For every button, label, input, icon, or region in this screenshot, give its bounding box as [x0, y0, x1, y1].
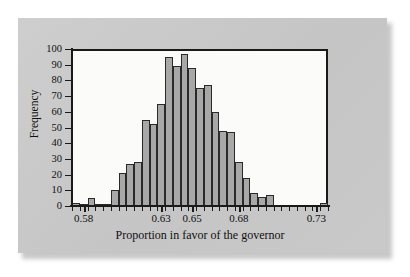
x-axis-tick: [258, 206, 259, 211]
histogram-bar: [173, 66, 181, 206]
y-axis-tick: [65, 80, 72, 81]
histogram-bar: [243, 178, 251, 206]
histogram-bar: [142, 120, 150, 206]
histogram-bar: [157, 104, 165, 206]
x-axis-tick: [126, 206, 127, 211]
histogram-bar: [111, 190, 119, 206]
x-axis-tick: [297, 206, 298, 211]
histogram-bar: [165, 57, 173, 206]
y-axis-tick: [65, 65, 72, 66]
y-axis-tick-label: 10: [32, 185, 62, 196]
x-axis-tick: [142, 206, 143, 211]
histogram-bar: [181, 54, 189, 206]
x-axis-tick: [72, 206, 73, 211]
y-axis-tick: [65, 206, 72, 207]
x-axis-line: [70, 205, 330, 207]
x-axis-tick: [243, 206, 244, 211]
x-axis-tick: [80, 206, 81, 211]
x-axis-tick: [305, 206, 306, 211]
y-axis-tick: [65, 159, 72, 160]
x-axis-tick: [95, 206, 96, 211]
x-axis-tick: [111, 206, 112, 211]
histogram-bar: [126, 164, 134, 206]
y-axis-tick-label: 30: [32, 154, 62, 165]
x-axis-tick-label: 0.68: [229, 212, 248, 224]
y-axis-title: Frequency: [28, 74, 40, 154]
x-axis-tick: [173, 206, 174, 211]
y-axis-tick-label: 100: [32, 44, 62, 55]
x-axis-tick: [235, 206, 236, 211]
x-axis-tick: [103, 206, 104, 211]
y-axis-tick: [65, 143, 72, 144]
x-axis-tick: [181, 206, 182, 211]
histogram-bar: [227, 132, 235, 206]
x-axis-tick: [328, 206, 329, 211]
x-axis-tick: [274, 206, 275, 211]
histogram-bar: [150, 124, 158, 206]
figure-root: 0102030405060708090100 0.580.630.650.680…: [0, 0, 410, 277]
histogram-bar: [204, 85, 212, 206]
x-axis-title: Proportion in favor of the governor: [72, 228, 328, 243]
y-axis-tick-label: 0: [32, 201, 62, 212]
x-axis-tick: [204, 206, 205, 211]
y-axis-tick: [65, 128, 72, 129]
x-axis-tick-label: 0.65: [183, 212, 202, 224]
x-axis-tick: [188, 206, 189, 211]
x-axis-tick: [250, 206, 251, 211]
histogram-bars: [72, 49, 328, 206]
x-axis-tick: [157, 206, 158, 211]
x-axis-tick: [227, 206, 228, 211]
y-axis-tick: [65, 49, 72, 50]
y-axis-tick: [65, 96, 72, 97]
x-axis-tick-label: 0.73: [307, 212, 326, 224]
y-axis-tick-label: 20: [32, 169, 62, 180]
y-axis-tick: [65, 175, 72, 176]
x-axis-tick: [134, 206, 135, 211]
y-axis-tick: [65, 190, 72, 191]
x-axis-tick: [281, 206, 282, 211]
x-axis-tick-label: 0.63: [152, 212, 171, 224]
x-axis-tick: [312, 206, 313, 211]
y-axis-tick: [65, 112, 72, 113]
histogram-bar: [235, 162, 243, 206]
x-axis-tick-label: 0.58: [74, 212, 93, 224]
y-axis-tick-label: 90: [32, 59, 62, 70]
x-axis-tick: [320, 206, 321, 211]
x-axis-tick: [88, 206, 89, 211]
x-axis-tick: [150, 206, 151, 211]
x-axis-tick: [212, 206, 213, 211]
x-axis-tick: [219, 206, 220, 211]
x-axis-tick: [119, 206, 120, 211]
histogram-bar: [212, 112, 220, 206]
x-axis-tick: [289, 206, 290, 211]
histogram-bar: [219, 131, 227, 206]
histogram-bar: [196, 88, 204, 206]
x-axis-tick: [196, 206, 197, 211]
x-axis-tick: [266, 206, 267, 211]
x-axis-tick: [165, 206, 166, 211]
histogram-bar: [119, 173, 127, 206]
histogram-bar: [188, 68, 196, 206]
histogram-bar: [134, 162, 142, 206]
